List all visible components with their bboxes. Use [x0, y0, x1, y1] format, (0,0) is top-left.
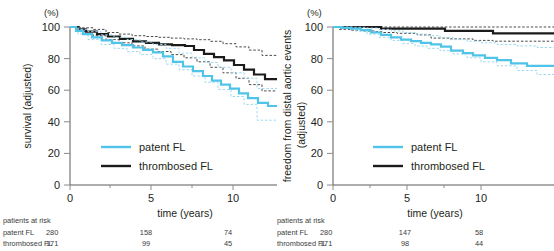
- risk-value-thrombosed-1: 98: [401, 239, 409, 248]
- svg-text:40: 40: [311, 116, 323, 128]
- svg-text:100: 100: [305, 21, 323, 33]
- risk-value-patent-0: 280: [46, 228, 58, 237]
- svg-text:10: 10: [475, 192, 487, 204]
- risk-value-thrombosed-1: 99: [142, 239, 150, 248]
- legend-label-thrombosed: thrombosed FL: [411, 160, 485, 172]
- chart-legend: patent FL thrombosed FL: [373, 141, 485, 172]
- y-unit-label: (%): [307, 7, 322, 18]
- y-axis-ticks: [327, 27, 333, 185]
- svg-text:10: 10: [227, 192, 239, 204]
- risk-value-patent-0: 280: [320, 228, 332, 237]
- x-axis-title: time (years): [407, 207, 462, 219]
- svg-text:5: 5: [404, 192, 410, 204]
- x-axis-tick-labels: 0 5 10: [330, 192, 487, 204]
- risk-value-patent-1: 147: [399, 228, 411, 237]
- y-axis-title: freedom from distal aortic events: [281, 30, 293, 182]
- svg-text:60: 60: [311, 84, 323, 96]
- survival-chart-svg: (%) 0 20 40 60 80 100: [0, 0, 277, 251]
- svg-text:20: 20: [48, 147, 60, 159]
- x-axis-title: time (years): [157, 207, 212, 219]
- svg-text:0: 0: [317, 179, 323, 191]
- patients-at-risk-table: patients at risk patent FL 280 147 58 th…: [277, 216, 483, 248]
- distal-aortic-events-chart-svg: (%) 0 20 40 60 80 100 0 5: [277, 0, 554, 251]
- y-axis-title-line2: (adjusted): [295, 102, 307, 149]
- survival-chart-panel: (%) 0 20 40 60 80 100: [0, 0, 277, 251]
- svg-text:5: 5: [148, 192, 154, 204]
- distal-aortic-events-chart-panel: (%) 0 20 40 60 80 100 0 5: [277, 0, 554, 251]
- y-unit-label: (%): [44, 7, 59, 18]
- svg-text:100: 100: [42, 21, 60, 33]
- risk-value-thrombosed-0: 171: [320, 239, 332, 248]
- svg-text:0: 0: [67, 192, 73, 204]
- risk-table-title: patients at risk: [277, 216, 325, 225]
- risk-row-label-patent: patent FL: [3, 228, 34, 237]
- svg-text:0: 0: [330, 192, 336, 204]
- risk-value-patent-2: 58: [475, 228, 483, 237]
- svg-text:80: 80: [48, 53, 60, 65]
- patients-at-risk-table: patients at risk patent FL 280 158 74 th…: [3, 216, 232, 248]
- svg-text:20: 20: [311, 147, 323, 159]
- legend-label-patent: patent FL: [139, 141, 185, 153]
- chart-legend: patent FL thrombosed FL: [101, 141, 213, 172]
- svg-text:60: 60: [48, 84, 60, 96]
- x-axis-ticks: [333, 185, 481, 190]
- risk-value-thrombosed-0: 171: [46, 239, 58, 248]
- risk-row-label-patent: patent FL: [277, 228, 308, 237]
- risk-table-title: patients at risk: [3, 216, 51, 225]
- svg-text:80: 80: [311, 53, 323, 65]
- y-axis-title: survival (adjusted): [21, 63, 33, 148]
- risk-value-patent-1: 158: [140, 228, 152, 237]
- risk-value-patent-2: 74: [224, 228, 232, 237]
- legend-label-patent: patent FL: [411, 141, 457, 153]
- x-axis-ticks: [70, 185, 233, 190]
- y-axis-tick-labels: 0 20 40 60 80 100: [42, 21, 60, 191]
- svg-text:40: 40: [48, 116, 60, 128]
- y-axis-ticks: [64, 27, 70, 185]
- risk-value-thrombosed-2: 45: [224, 239, 232, 248]
- patent-survival-curve: [70, 27, 277, 106]
- legend-label-thrombosed: thrombosed FL: [139, 160, 213, 172]
- risk-value-thrombosed-2: 44: [475, 239, 483, 248]
- svg-text:0: 0: [54, 179, 60, 191]
- y-axis-tick-labels: 0 20 40 60 80 100: [305, 21, 323, 191]
- x-axis-tick-labels: 0 5 10: [67, 192, 239, 204]
